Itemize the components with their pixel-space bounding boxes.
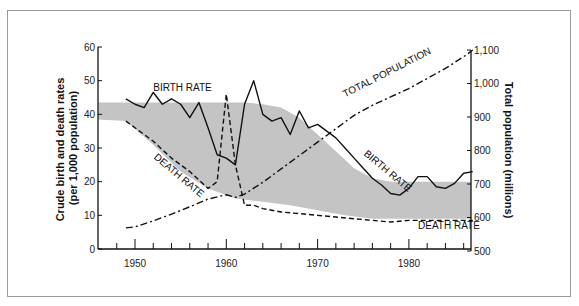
y-tick-label: 20 bbox=[84, 176, 96, 187]
x-tick-label: 1960 bbox=[215, 258, 238, 269]
y-tick-label: 0 bbox=[89, 244, 95, 255]
x-tick-label: 1970 bbox=[306, 258, 329, 269]
y-tick-label: 10 bbox=[84, 210, 96, 221]
y-right-tick-label: 500 bbox=[474, 246, 491, 257]
y-tick-label: 40 bbox=[84, 109, 96, 120]
y-right-tick-label: 1,000 bbox=[474, 78, 499, 89]
left-axis-title-line2: (per 1,000 population) bbox=[67, 91, 79, 206]
y-right-tick-label: 700 bbox=[474, 179, 491, 190]
right-axis-title: Total population (millions) bbox=[503, 82, 515, 219]
y-tick-label: 60 bbox=[84, 42, 96, 53]
x-tick-label: 1950 bbox=[124, 258, 147, 269]
y-tick-label: 30 bbox=[84, 143, 96, 154]
chart-plot: 01020304050605006007008009001,0001,10019… bbox=[0, 0, 579, 306]
y-right-tick-label: 800 bbox=[474, 145, 491, 156]
series-annotation: TOTAL POPULATION bbox=[341, 45, 433, 99]
left-axis-title: Crude birth and death rates (per 1,000 p… bbox=[54, 75, 79, 222]
series-annotation: BIRTH RATE bbox=[153, 82, 212, 93]
y-right-tick-label: 1,100 bbox=[474, 45, 499, 56]
series-annotation: DEATH RATE bbox=[418, 220, 480, 231]
y-tick-label: 50 bbox=[84, 75, 96, 86]
y-right-tick-label: 900 bbox=[474, 112, 491, 123]
left-axis-title-line1: Crude birth and death rates bbox=[54, 78, 66, 222]
x-tick-label: 1980 bbox=[398, 258, 421, 269]
